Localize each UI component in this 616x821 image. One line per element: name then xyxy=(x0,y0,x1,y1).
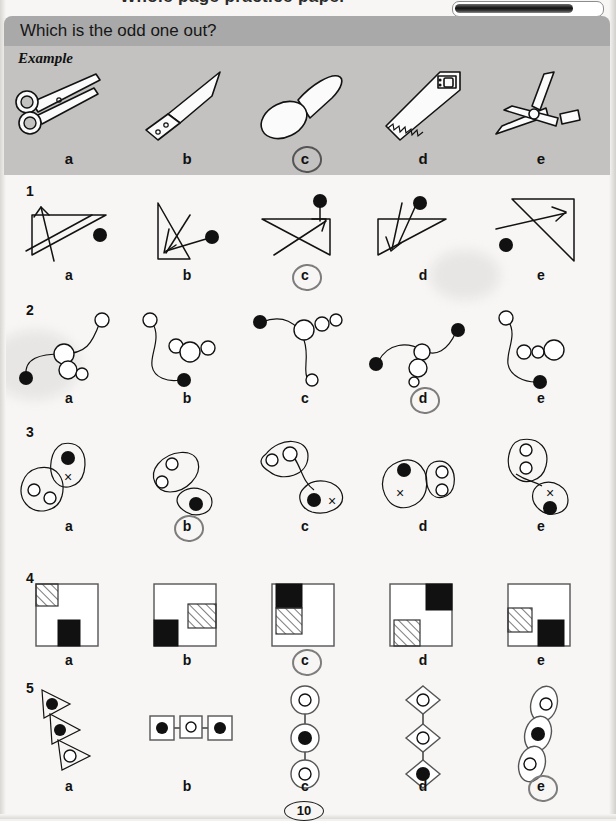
example-letter-d: d xyxy=(364,150,482,167)
q1-option-a[interactable] xyxy=(10,193,128,263)
q1-letter-c: c xyxy=(246,267,364,283)
page-title: Which is the odd one out? xyxy=(20,21,217,41)
q3-letter-e: e xyxy=(482,518,600,534)
example-letter-c: c xyxy=(246,150,364,167)
q3-option-e[interactable]: × xyxy=(482,436,600,518)
svg-text:×: × xyxy=(396,485,404,501)
example-label: Example xyxy=(18,50,73,67)
triangle-arrow-dot-icon xyxy=(10,193,128,263)
example-band: Example xyxy=(4,46,610,175)
q4-option-b[interactable] xyxy=(128,578,246,650)
q3-option-a[interactable]: × xyxy=(10,436,128,518)
example-item-b[interactable] xyxy=(128,66,246,146)
shape-chain-icon xyxy=(364,686,482,774)
q3-option-d[interactable]: × xyxy=(364,436,482,518)
q4-option-a[interactable] xyxy=(10,578,128,650)
example-letter-b: b xyxy=(128,150,246,167)
q2-option-e[interactable] xyxy=(482,310,600,388)
q2-letter-b: b xyxy=(128,390,246,406)
shape-chain-icon xyxy=(128,686,246,774)
q2-letter-a: a xyxy=(10,390,128,406)
svg-text:×: × xyxy=(64,469,72,485)
question-band: Which is the odd one out? xyxy=(4,16,610,46)
question-row-4: 4 xyxy=(4,570,610,670)
example-letter-e: e xyxy=(482,150,600,167)
triangle-arrow-dot-icon xyxy=(364,193,482,263)
q3-letter-d: d xyxy=(364,518,482,534)
q4-option-c[interactable] xyxy=(246,578,364,650)
black-pen xyxy=(452,1,604,17)
svg-text:×: × xyxy=(546,485,554,501)
q2-letter-d: d xyxy=(364,390,482,406)
q4-letter-b: b xyxy=(128,652,246,668)
q5-option-d[interactable] xyxy=(364,686,482,774)
blob-pair-icon xyxy=(128,436,246,518)
q2-option-b[interactable] xyxy=(128,310,246,388)
q3-option-c[interactable]: × xyxy=(246,436,364,518)
example-item-c[interactable] xyxy=(246,66,364,146)
triangle-arrow-dot-icon xyxy=(128,193,246,263)
saw-icon xyxy=(364,66,482,146)
square-grid-icon xyxy=(364,578,482,650)
square-grid-icon xyxy=(246,578,364,650)
curve-circles-icon xyxy=(10,310,128,388)
q1-option-c[interactable] xyxy=(246,193,364,263)
blob-pair-icon: × xyxy=(10,436,128,518)
spoon-icon xyxy=(246,66,364,146)
q1-letter-e: e xyxy=(482,267,600,283)
q1-option-b[interactable] xyxy=(128,193,246,263)
scissors-icon xyxy=(10,66,128,146)
curve-circles-icon xyxy=(128,310,246,388)
triangle-arrow-dot-icon xyxy=(482,193,600,263)
q1-letter-b: b xyxy=(128,267,246,283)
square-grid-icon xyxy=(128,578,246,650)
q5-option-c[interactable] xyxy=(246,686,364,774)
knife-icon xyxy=(128,66,246,146)
q1-option-d[interactable] xyxy=(364,193,482,263)
svg-text:×: × xyxy=(328,493,336,509)
q4-option-e[interactable] xyxy=(482,578,600,650)
q5-option-b[interactable] xyxy=(128,686,246,774)
shape-chain-icon xyxy=(10,686,128,774)
blob-pair-icon: × xyxy=(246,436,364,518)
q3-option-b[interactable] xyxy=(128,436,246,518)
q2-option-c[interactable] xyxy=(246,310,364,388)
question-row-1: 1 xyxy=(4,183,610,288)
cutoff-heading-text: Whole page practice paper xyxy=(120,0,346,6)
q5-letter-c: c xyxy=(246,778,364,794)
example-item-e[interactable] xyxy=(482,66,600,146)
shears-icon xyxy=(482,66,600,146)
q2-letter-e: e xyxy=(482,390,600,406)
blob-pair-icon: × xyxy=(364,436,482,518)
q5-letter-a: a xyxy=(10,778,128,794)
q3-letter-a: a xyxy=(10,518,128,534)
square-grid-icon xyxy=(482,578,600,650)
example-letter-a: a xyxy=(10,150,128,167)
curve-circles-icon xyxy=(482,310,600,388)
q2-option-a[interactable] xyxy=(10,310,128,388)
q1-option-e[interactable] xyxy=(482,193,600,263)
q2-letter-c: c xyxy=(246,390,364,406)
question-row-3: 3 × xyxy=(4,424,610,539)
question-row-5: 5 xyxy=(4,680,610,795)
q5-letter-d: d xyxy=(364,778,482,794)
q2-option-d[interactable] xyxy=(364,310,482,388)
q3-letter-b: b xyxy=(128,518,246,534)
example-item-d[interactable] xyxy=(364,66,482,146)
triangle-arrow-dot-icon xyxy=(246,193,364,263)
q4-option-d[interactable] xyxy=(364,578,482,650)
q4-letter-d: d xyxy=(364,652,482,668)
blob-pair-icon: × xyxy=(482,436,600,518)
page-number: 10 xyxy=(284,801,324,821)
question-row-2: 2 xyxy=(4,302,610,412)
square-grid-icon xyxy=(10,578,128,650)
q5-letter-b: b xyxy=(128,778,246,794)
q3-letter-c: c xyxy=(246,518,364,534)
curve-circles-icon xyxy=(246,310,364,388)
curve-circles-icon xyxy=(364,310,482,388)
shape-chain-icon xyxy=(246,686,364,774)
q5-option-a[interactable] xyxy=(10,686,128,774)
example-item-a[interactable] xyxy=(10,66,128,146)
q5-option-e[interactable] xyxy=(482,686,600,774)
